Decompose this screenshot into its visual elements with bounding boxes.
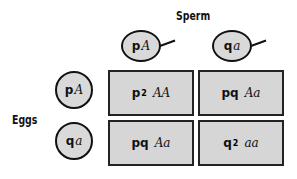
cell-aa: q2aa	[198, 120, 284, 166]
sperm-pA: pA	[121, 30, 161, 62]
egg-pA: pA	[55, 71, 93, 109]
cell-AA: p2AA	[108, 70, 194, 116]
egg-qa: qa	[55, 122, 93, 160]
sperm-tail-icon	[251, 40, 267, 47]
cell-Aa-bottom: pqAa	[108, 120, 194, 166]
sperm-qa: qa	[212, 30, 252, 62]
cell-Aa-top: pqAa	[198, 70, 284, 116]
eggs-label: Eggs	[12, 112, 37, 127]
sperm-label: Sperm	[176, 8, 210, 23]
sperm-tail-icon	[160, 40, 176, 47]
